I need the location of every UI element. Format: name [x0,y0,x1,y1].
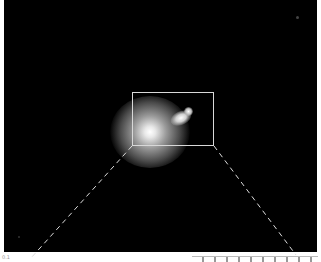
next-panel-top [192,256,318,262]
panel-label: 0.1 [2,254,10,260]
